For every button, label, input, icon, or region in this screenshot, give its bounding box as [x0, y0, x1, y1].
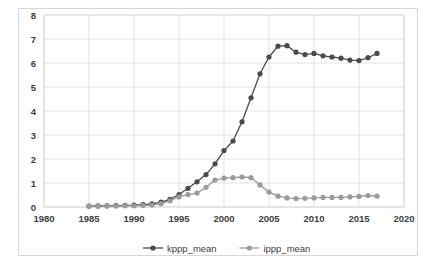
data-point	[347, 58, 352, 63]
y-axis-labels: 012345678	[31, 10, 37, 213]
y-tick-label: 3	[31, 130, 36, 141]
data-point	[194, 190, 199, 195]
data-point	[338, 195, 343, 200]
data-point	[167, 198, 172, 203]
data-point	[302, 196, 307, 201]
data-point	[239, 119, 244, 124]
data-point	[185, 186, 190, 191]
data-point	[185, 192, 190, 197]
x-tick-label: 2010	[303, 213, 324, 224]
x-tick-label: 2005	[258, 213, 280, 224]
data-point	[239, 174, 244, 179]
legend-label: ippp_mean	[263, 243, 310, 254]
data-point	[122, 203, 127, 208]
y-tick-label: 8	[31, 10, 36, 21]
data-point	[266, 54, 271, 59]
data-point	[293, 50, 298, 55]
x-tick-label: 1990	[123, 213, 144, 224]
legend-label: kppp_mean	[167, 243, 217, 254]
series-line-ippp_mean	[89, 177, 377, 206]
x-axis-labels: 198019851990199520002005201020152020	[33, 213, 414, 224]
data-point	[275, 194, 280, 199]
data-point	[284, 195, 289, 200]
data-point	[149, 202, 154, 207]
x-tick-label: 1985	[78, 213, 100, 224]
data-point	[212, 178, 217, 183]
y-tick-label: 6	[31, 58, 36, 69]
legend: kppp_meanippp_mean	[143, 243, 310, 254]
y-tick-label: 0	[31, 202, 36, 213]
data-point	[194, 179, 199, 184]
data-point	[230, 175, 235, 180]
data-point	[158, 201, 163, 206]
legend-item-kppp_mean[interactable]: kppp_mean	[143, 243, 217, 254]
data-point	[86, 204, 91, 209]
data-point	[302, 52, 307, 57]
data-point	[356, 194, 361, 199]
data-point	[329, 54, 334, 59]
y-tick-label: 2	[31, 154, 36, 165]
data-point	[113, 203, 118, 208]
data-point	[275, 44, 280, 49]
data-point	[257, 182, 262, 187]
x-tick-label: 2015	[348, 213, 370, 224]
data-point	[365, 55, 370, 60]
legend-item-ippp_mean[interactable]: ippp_mean	[239, 243, 310, 254]
data-point	[203, 185, 208, 190]
data-point	[347, 194, 352, 199]
x-tick-label: 1980	[33, 213, 54, 224]
y-tick-label: 1	[31, 178, 37, 189]
y-tick-label: 7	[31, 34, 36, 45]
data-point	[257, 71, 262, 76]
data-point	[338, 56, 343, 61]
data-point	[311, 195, 316, 200]
x-tick-label: 2020	[393, 213, 414, 224]
series-ippp_mean	[86, 174, 379, 208]
data-point	[131, 203, 136, 208]
data-point	[374, 51, 379, 56]
y-tick-label: 4	[31, 106, 37, 117]
data-point	[248, 175, 253, 180]
data-point	[266, 190, 271, 195]
data-point	[320, 195, 325, 200]
data-point	[212, 161, 217, 166]
x-tick-label: 2000	[213, 213, 234, 224]
data-point	[374, 194, 379, 199]
data-point	[356, 58, 361, 63]
data-point	[311, 51, 316, 56]
x-tick-label: 1995	[168, 213, 190, 224]
data-point	[95, 204, 100, 209]
data-point	[203, 172, 208, 177]
data-point	[293, 196, 298, 201]
series-line-kppp_mean	[89, 46, 377, 206]
data-point	[248, 95, 253, 100]
data-point	[329, 195, 334, 200]
legend-marker	[150, 245, 155, 250]
line-chart: 0123456781980198519901995200020052010201…	[0, 0, 438, 275]
data-point	[176, 194, 181, 199]
data-point	[320, 53, 325, 58]
y-tick-label: 5	[31, 82, 37, 93]
data-point	[104, 203, 109, 208]
data-point	[284, 43, 289, 48]
data-point	[221, 148, 226, 153]
data-point	[365, 193, 370, 198]
data-point	[140, 203, 145, 208]
series-kppp_mean	[86, 43, 379, 209]
data-point	[230, 138, 235, 143]
data-point	[221, 176, 226, 181]
legend-marker	[247, 245, 252, 250]
